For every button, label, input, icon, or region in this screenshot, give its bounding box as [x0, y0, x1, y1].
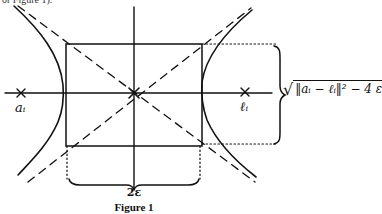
asymptote-ascending	[28, 8, 251, 182]
width-label: 2ε	[0, 186, 268, 199]
formula-radicand: ‖aᵢ − ℓᵢ‖² − 4 ε	[293, 80, 382, 97]
height-formula: √‖aᵢ − ℓᵢ‖² − 4 ε	[283, 80, 382, 99]
right-focus-x-marker	[241, 88, 249, 96]
hyperbola-left-branch	[14, 6, 63, 175]
sqrt-symbol: √	[283, 80, 293, 99]
left-focus-label: aᵢ	[15, 101, 25, 114]
figure-caption: Figure 1	[0, 201, 268, 213]
right-focus-label: ℓᵢ	[240, 100, 248, 113]
